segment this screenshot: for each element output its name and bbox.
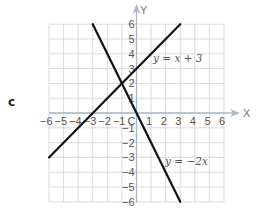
y-tick-label: −4: [122, 166, 135, 178]
line-y-equals-x-plus-3: [49, 24, 180, 157]
y-tick-label: 2: [128, 77, 134, 89]
y-tick-label: 6: [128, 18, 134, 30]
x-axis-name: X: [243, 107, 251, 119]
y-tick-label: 4: [128, 48, 134, 60]
x-tick-label: 4: [190, 115, 196, 127]
x-tick-label: 2: [161, 115, 167, 127]
y-tick-label: −2: [122, 137, 135, 149]
y-tick-label: 5: [128, 33, 134, 45]
y-tick-label: −5: [122, 181, 135, 193]
axes: Y X: [49, 4, 251, 203]
x-tick-label: 3: [175, 115, 181, 127]
x-tick-label: 5: [204, 115, 210, 127]
y-tick-label: −1: [122, 122, 135, 134]
y-tick-label: −3: [122, 151, 135, 163]
equation-label-line1: y = x + 3: [152, 52, 203, 64]
x-tick-label: 1: [146, 115, 152, 127]
y-axis-name: Y: [140, 4, 148, 16]
panel-label: c: [8, 95, 15, 109]
x-tick-label: −5: [55, 115, 68, 127]
y-tick-label: −6: [122, 196, 135, 208]
graph: Y X −6−5−4−3−2−1C123456123456−1−2−3−4−5−…: [0, 0, 260, 221]
x-tick-label: −6: [40, 115, 53, 127]
equation-label-line2: y = −2x: [164, 155, 208, 167]
x-tick-label: 6: [219, 115, 225, 127]
x-tick-label: −2: [98, 115, 111, 127]
